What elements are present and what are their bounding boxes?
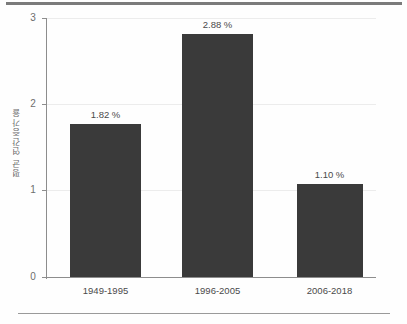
bottom-divider-rule bbox=[18, 313, 390, 314]
x-category-label-2006-2018: 2006-2018 bbox=[294, 286, 365, 296]
x-axis-line bbox=[46, 277, 376, 278]
bar-2006-2018[interactable] bbox=[297, 184, 363, 277]
top-divider-rule bbox=[6, 2, 402, 5]
x-category-label-1996-2005: 1996-2005 bbox=[182, 286, 253, 296]
y-axis-title: 평균 연간증가율 bbox=[12, 96, 26, 188]
bar-value-1996-2005: 2.88 % bbox=[182, 20, 253, 30]
bar-1949-1995[interactable] bbox=[70, 124, 141, 277]
x-category-label-1949-1995: 1949-1995 bbox=[70, 286, 141, 296]
figure: 평균 연간증가율 3 2 1 0 1.82 % 1949-1995 2.88 %… bbox=[0, 0, 407, 324]
plot-area: 3 2 1 0 1.82 % 1949-1995 2.88 % 1996-200… bbox=[46, 18, 376, 283]
bar-value-2006-2018: 1.10 % bbox=[294, 170, 365, 180]
y-axis-line bbox=[46, 18, 47, 279]
y-tick-label-3: 3 bbox=[12, 13, 36, 23]
y-tick-label-1: 1 bbox=[12, 185, 36, 195]
y-tick-mark-0 bbox=[42, 277, 47, 278]
y-tick-mark-2 bbox=[42, 104, 47, 105]
bar-value-1949-1995: 1.82 % bbox=[70, 110, 141, 120]
y-tick-mark-1 bbox=[42, 190, 47, 191]
y-tick-label-0: 0 bbox=[12, 272, 36, 282]
y-tick-mark-3 bbox=[42, 18, 47, 19]
bar-1996-2005[interactable] bbox=[182, 34, 253, 277]
y-tick-label-2: 2 bbox=[12, 99, 36, 109]
